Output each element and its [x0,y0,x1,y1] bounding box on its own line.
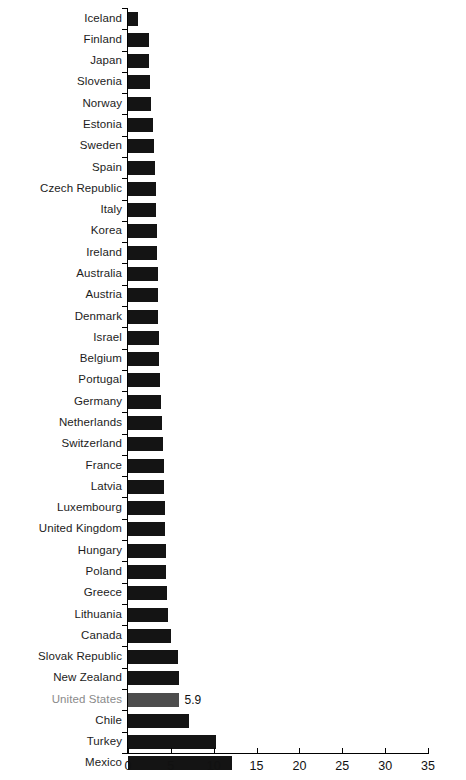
category-label: Turkey [87,736,122,748]
category-label: Norway [82,98,122,110]
bar [128,352,159,366]
category-label: Latvia [91,481,122,493]
bar [128,714,189,728]
bar [128,735,216,749]
bar-row: Netherlands [0,412,466,433]
y-axis-tick [122,200,127,201]
category-label: Portugal [78,375,122,387]
y-axis-tick [122,349,127,350]
bar [128,522,165,536]
bar-row: Latvia [0,476,466,497]
y-axis-tick [122,178,127,179]
category-label: Greece [84,587,122,599]
category-label: Iceland [84,13,122,25]
category-label: Mexico [85,758,122,770]
bar-row: Norway [0,93,466,114]
bar [128,395,161,409]
bar-row: Ireland [0,242,466,263]
bar [128,608,168,622]
category-label: Italy [100,204,122,216]
bar-row: New Zealand [0,668,466,689]
bar-row: Germany [0,391,466,412]
bar [128,12,138,26]
category-label: Korea [91,226,122,238]
y-axis-tick [122,306,127,307]
category-label: United Kingdom [39,524,122,536]
bar [128,459,164,473]
y-axis-tick [122,93,127,94]
bar [128,139,154,153]
category-label: Netherlands [59,417,122,429]
y-axis-tick [122,412,127,413]
bar-row: Poland [0,561,466,582]
y-axis-tick [122,136,127,137]
bar-chart: IcelandFinlandJapanSloveniaNorwayEstonia… [0,0,466,780]
bar [128,331,159,345]
bar [128,416,162,430]
bar [128,671,179,685]
bar-row: Austria [0,285,466,306]
y-axis-tick [122,391,127,392]
bar [128,161,155,175]
y-axis-tick [122,753,127,754]
bar-row: Estonia [0,114,466,135]
y-axis-tick [122,604,127,605]
y-axis-tick [122,72,127,73]
category-label: France [86,460,122,472]
bar-row: Lithuania [0,604,466,625]
bar-row: Spain [0,157,466,178]
category-label: Czech Republic [40,183,122,195]
bar-rows: IcelandFinlandJapanSloveniaNorwayEstonia… [0,8,466,753]
bar-value-label: 5.9 [185,694,202,706]
bar [128,373,160,387]
category-label: Estonia [83,119,122,131]
y-axis-tick [122,561,127,562]
y-axis-tick [122,221,127,222]
bar [128,565,166,579]
bar-row: Korea [0,221,466,242]
bar-row: Australia [0,263,466,284]
y-axis-tick [122,710,127,711]
bar-row: Hungary [0,540,466,561]
bar-row: Turkey [0,732,466,753]
y-axis-tick [122,668,127,669]
bar [128,203,156,217]
bar-row: Israel [0,327,466,348]
y-axis-tick [122,497,127,498]
y-axis-tick [122,476,127,477]
category-label: Austria [86,290,123,302]
bar-row: Greece [0,583,466,604]
y-axis-tick [122,285,127,286]
y-axis-tick [122,732,127,733]
bar-row: Italy [0,200,466,221]
y-axis-tick [122,327,127,328]
category-label: New Zealand [53,673,122,685]
y-axis-tick [122,157,127,158]
bar [128,182,156,196]
y-axis-tick [122,29,127,30]
bar-row: Slovak Republic [0,646,466,667]
y-axis-tick [122,114,127,115]
category-label: United States [52,694,122,706]
category-label: Lithuania [74,609,122,621]
category-label: Australia [76,268,122,280]
category-label: Finland [84,34,122,46]
bar [128,544,166,558]
bar [128,288,158,302]
y-axis-tick [122,646,127,647]
bar [128,267,158,281]
bar [128,501,165,515]
bar-row: Canada [0,625,466,646]
category-label: Slovenia [77,77,122,89]
y-axis-tick [122,519,127,520]
bar-row: Belgium [0,349,466,370]
y-axis-tick [122,455,127,456]
y-axis-tick [122,689,127,690]
category-label: Ireland [86,247,122,259]
y-axis-tick [122,540,127,541]
bar-row: Mexico [0,753,466,774]
bar [128,629,171,643]
bar [128,650,178,664]
bar [128,586,167,600]
category-label: Germany [74,396,122,408]
